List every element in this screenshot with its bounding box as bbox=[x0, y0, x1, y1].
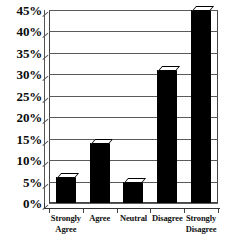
x-axis-left-cap bbox=[44, 203, 45, 209]
x-axis-category-label-line: Agree bbox=[45, 224, 87, 235]
bar-top-face bbox=[91, 139, 113, 144]
y-axis-tick-label: 5% bbox=[0, 176, 42, 189]
y-axis-tick-label: 0% bbox=[0, 197, 42, 210]
x-axis-category-label-line: Disagree bbox=[180, 224, 222, 235]
x-axis-tick bbox=[49, 209, 50, 213]
x-axis-tick bbox=[184, 209, 185, 213]
y-axis-tick-label: 45% bbox=[0, 4, 42, 17]
bar-top-face bbox=[124, 178, 146, 183]
x-axis-category-label: StronglyDisagree bbox=[180, 213, 222, 235]
bar-slot bbox=[150, 10, 184, 203]
bar-top-face bbox=[192, 6, 214, 11]
bar-series bbox=[49, 10, 218, 203]
x-axis-category-label-line: Strongly bbox=[180, 213, 222, 224]
x-axis-tick bbox=[83, 209, 84, 213]
y-axis-tick-labels: 45%40%35%30%25%20%15%10%5%0% bbox=[0, 0, 42, 212]
bar[interactable] bbox=[56, 177, 76, 203]
x-axis-tick bbox=[218, 209, 219, 213]
y-axis-tick-label: 40% bbox=[0, 25, 42, 38]
x-axis-baseline bbox=[44, 208, 220, 209]
y-axis-tick-label: 15% bbox=[0, 133, 42, 146]
x-axis-tick bbox=[150, 209, 151, 213]
x-axis-tick bbox=[117, 209, 118, 213]
y-axis-tick-label: 10% bbox=[0, 154, 42, 167]
y-axis-tick-label: 25% bbox=[0, 90, 42, 103]
bar-slot bbox=[117, 10, 151, 203]
bar-top-face bbox=[158, 66, 180, 71]
bar-chart: 45%40%35%30%25%20%15%10%5%0% StronglyAgr… bbox=[0, 0, 240, 249]
y-axis-tick-label: 30% bbox=[0, 68, 42, 81]
bar[interactable] bbox=[157, 70, 177, 203]
plot-area bbox=[49, 10, 218, 208]
bar[interactable] bbox=[123, 182, 143, 203]
bar-slot bbox=[49, 10, 83, 203]
x-axis-category-labels: StronglyAgreeAgreeNeutralDisagreeStrongl… bbox=[44, 213, 220, 249]
bar[interactable] bbox=[90, 143, 110, 203]
bar-slot bbox=[83, 10, 117, 203]
y-axis-tick-label: 35% bbox=[0, 47, 42, 60]
y-axis-tick-label: 20% bbox=[0, 111, 42, 124]
bar[interactable] bbox=[191, 10, 211, 203]
bar-top-face bbox=[57, 173, 79, 178]
bar-slot bbox=[184, 10, 218, 203]
